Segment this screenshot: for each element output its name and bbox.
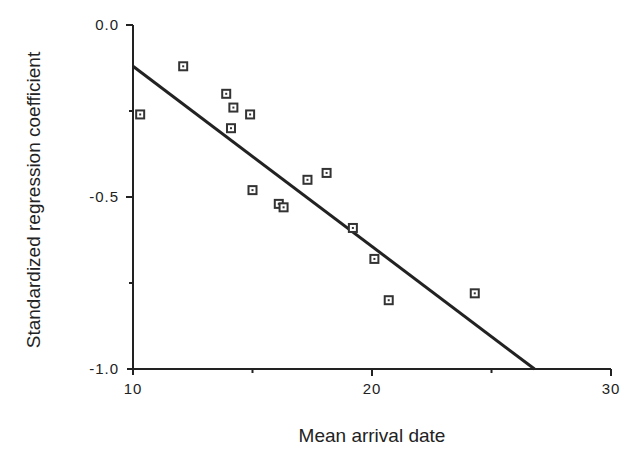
- data-point-marker: [470, 288, 480, 298]
- data-point-marker: [226, 123, 236, 133]
- data-point-marker: [348, 223, 358, 233]
- x-axis-title: Mean arrival date: [299, 425, 446, 446]
- y-tick-label: -1.0: [89, 360, 119, 377]
- data-point-marker: [279, 202, 289, 212]
- x-tick-label: 10: [124, 380, 143, 397]
- data-point-marker: [302, 175, 312, 185]
- data-point-marker: [384, 295, 394, 305]
- data-point-marker: [135, 109, 145, 119]
- data-point-marker: [245, 109, 255, 119]
- fit-line: [133, 66, 535, 369]
- axes: [127, 25, 611, 375]
- data-point-marker: [369, 254, 379, 264]
- y-axis-title: Standardized regression coefficient: [23, 51, 44, 348]
- scatter-chart: 1020300.0-0.5-1.0 Mean arrival date Stan…: [0, 0, 641, 454]
- x-tick-label: 30: [602, 380, 621, 397]
- x-tick-label: 20: [363, 380, 382, 397]
- data-point-marker: [221, 89, 231, 99]
- data-point-marker: [228, 103, 238, 113]
- data-point-marker: [178, 61, 188, 71]
- data-point-marker: [248, 185, 258, 195]
- ticks: 1020300.0-0.5-1.0: [89, 16, 620, 397]
- regression-line: [133, 66, 535, 369]
- y-tick-label: 0.0: [95, 16, 119, 33]
- y-tick-label: -0.5: [89, 188, 119, 205]
- data-points: [135, 61, 480, 305]
- data-point-marker: [322, 168, 332, 178]
